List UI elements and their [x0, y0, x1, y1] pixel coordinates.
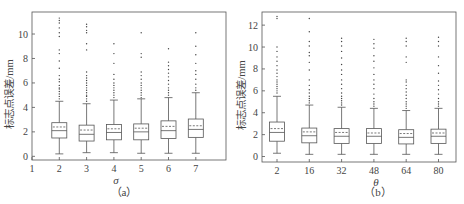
x-tick-label: 16 [304, 165, 314, 176]
outlier-point [195, 63, 196, 64]
iqr-box [399, 130, 414, 144]
outlier-point [113, 92, 114, 93]
outlier-point [86, 77, 87, 78]
outlier-point [341, 51, 342, 52]
outlier-point [86, 101, 87, 102]
outlier-point [341, 102, 342, 103]
outlier-point [438, 103, 439, 104]
outlier-point [341, 57, 342, 58]
outlier-point [59, 98, 60, 99]
outlier-point [406, 85, 407, 86]
outlier-point [438, 80, 439, 81]
outlier-point [113, 82, 114, 83]
outlier-point [86, 30, 87, 31]
box-5 [134, 32, 149, 153]
outlier-point [341, 84, 342, 85]
x-tick-label: 6 [166, 163, 171, 174]
outlier-point [195, 54, 196, 55]
outlier-point [86, 49, 87, 50]
x-tick-label: 4 [111, 163, 116, 174]
outlier-point [195, 70, 196, 71]
outlier-point [86, 71, 87, 72]
box-64 [399, 38, 414, 155]
outlier-point [309, 18, 310, 19]
outlier-point [406, 79, 407, 80]
iqr-box [270, 122, 285, 141]
outlier-point [276, 84, 277, 85]
outlier-point [113, 74, 114, 75]
y-tick-label: 2 [253, 129, 258, 140]
outlier-point [59, 27, 60, 28]
outlier-point [113, 94, 114, 95]
outlier-point [276, 16, 277, 17]
outlier-point [373, 39, 374, 40]
outlier-point [59, 79, 60, 80]
outlier-point [438, 98, 439, 99]
iqr-box [79, 125, 94, 141]
outlier-point [59, 75, 60, 76]
outlier-point [406, 81, 407, 82]
outlier-point [141, 94, 142, 95]
box-6 [161, 48, 176, 153]
outlier-point [341, 104, 342, 105]
outlier-point [59, 91, 60, 92]
outlier-point [341, 45, 342, 46]
x-tick-label: 2 [275, 165, 280, 176]
outlier-point [309, 41, 310, 42]
outlier-point [86, 26, 87, 27]
y-tick-label: 4 [253, 107, 258, 118]
outlier-point [406, 56, 407, 57]
box-32 [334, 38, 349, 155]
outlier-point [276, 73, 277, 74]
outlier-point [141, 53, 142, 54]
outlier-point [141, 90, 142, 91]
outlier-point [276, 90, 277, 91]
outlier-point [373, 74, 374, 75]
outlier-point [341, 41, 342, 42]
box-80 [431, 36, 446, 154]
outlier-point [438, 73, 439, 74]
outlier-point [341, 96, 342, 97]
outlier-point [373, 55, 374, 56]
outlier-point [276, 61, 277, 62]
outlier-point [276, 81, 277, 82]
outlier-point [438, 105, 439, 106]
outlier-point [86, 92, 87, 93]
y-axis-label: 标志点误差/mm [235, 60, 247, 129]
outlier-point [168, 80, 169, 81]
x-tick-label: 32 [337, 165, 347, 176]
box-7 [188, 32, 203, 153]
outlier-point [276, 79, 277, 80]
outlier-point [276, 51, 277, 52]
outlier-point [113, 97, 114, 98]
outlier-point [168, 90, 169, 91]
outlier-point [438, 101, 439, 102]
outlier-point [438, 65, 439, 66]
outlier-point [438, 36, 439, 37]
outlier-point [113, 87, 114, 88]
outlier-point [113, 85, 114, 86]
outlier-point [168, 92, 169, 93]
outlier-point [276, 92, 277, 93]
outlier-point [309, 85, 310, 86]
outlier-point [373, 93, 374, 94]
outlier-point [341, 98, 342, 99]
outlier-point [113, 43, 114, 44]
outlier-point [168, 61, 169, 62]
outlier-point [309, 31, 310, 32]
outlier-point [276, 65, 277, 66]
x-tick-label: 1 [30, 163, 35, 174]
outlier-point [309, 89, 310, 90]
outlier-point [276, 56, 277, 57]
y-tick-label: 6 [23, 77, 28, 88]
outlier-point [141, 97, 142, 98]
outlier-point [195, 74, 196, 75]
outlier-point [406, 38, 407, 39]
outlier-point [195, 32, 196, 33]
outlier-point [168, 94, 169, 95]
boxplot-theta: 02468101221632486480θ标志点误差/mm [232, 0, 464, 204]
outlier-point [59, 20, 60, 21]
outlier-point [86, 80, 87, 81]
outlier-point [195, 83, 196, 84]
iqr-box [161, 121, 176, 139]
